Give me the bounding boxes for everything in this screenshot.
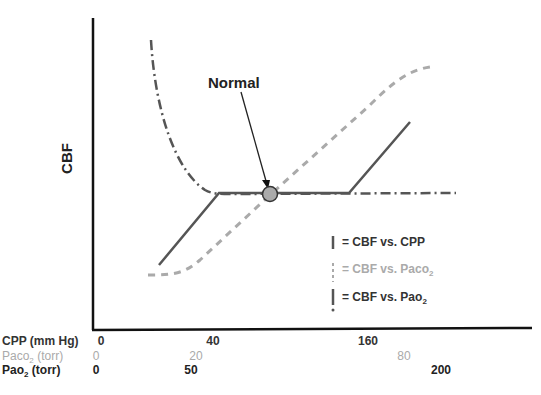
tick-paco2-20: 20 (189, 349, 202, 363)
normal-point (263, 187, 278, 202)
x-axis-cpp: CPP (mm Hg) 0 40 160 (0, 334, 541, 348)
tick-cpp-160: 160 (358, 334, 378, 348)
x-axis-paco2: Paco2 (torr) 0 20 80 (0, 349, 541, 363)
tick-cpp-40: 40 (206, 334, 219, 348)
legend-label-pao2: = CBF vs. Pao2 (342, 290, 427, 306)
normal-arrow (241, 92, 266, 181)
tick-cpp-0: 0 (98, 334, 105, 348)
legend-item-cpp: = CBF vs. CPP (328, 228, 434, 256)
tick-paco2-0: 0 (93, 349, 100, 363)
x-axis-cpp-label: CPP (mm Hg) (2, 334, 78, 348)
legend-item-paco2: = CBF vs. Paco2 (328, 256, 434, 284)
legend-item-pao2: = CBF vs. Pao2 (328, 284, 434, 312)
tick-pao2-200: 200 (431, 363, 451, 377)
tick-paco2-80: 80 (397, 349, 410, 363)
x-axis-pao2: Pao2 (torr) 0 50 200 (0, 363, 541, 377)
tick-pao2-0: 0 (93, 363, 100, 377)
curve-cbf-vs-pao2 (151, 40, 456, 194)
legend-label-cpp: = CBF vs. CPP (342, 235, 425, 249)
legend: = CBF vs. CPP = CBF vs. Paco2 = CBF vs. … (328, 228, 434, 312)
normal-annotation: Normal (208, 74, 260, 91)
legend-label-paco2: = CBF vs. Paco2 (342, 262, 434, 278)
x-axis-pao2-label: Pao2 (torr) (2, 363, 60, 379)
y-axis-label: CBF (58, 139, 75, 179)
tick-pao2-50: 50 (184, 363, 197, 377)
x-axis (92, 328, 532, 330)
